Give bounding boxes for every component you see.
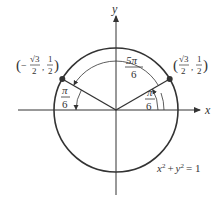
svg-text:,: , [42,62,44,72]
svg-text:x2+y2= 1: x2+y2= 1 [156,162,200,174]
svg-text:√3: √3 [179,54,189,64]
svg-text:1: 1 [48,54,53,64]
svg-text:6: 6 [131,68,137,80]
y-axis-label: y [111,2,118,16]
unit-circle-diagram: x y 5π 6 π 6 π 6 ( − √3 2 , 1 2 [0,0,220,205]
arc-left-pi-6 [76,90,81,110]
svg-text:2: 2 [32,66,37,76]
svg-text:2: 2 [181,66,186,76]
svg-text:2: 2 [197,66,202,76]
svg-text:π: π [147,86,153,98]
svg-text:−: − [21,60,27,71]
left-radius [62,79,116,110]
svg-text:,: , [191,62,193,72]
svg-text:6: 6 [62,98,68,110]
x-axis-label: x [204,103,211,117]
svg-text:1: 1 [197,54,202,64]
left-point-label: ( − √3 2 , 1 2 ) [16,54,59,76]
svg-text:√3: √3 [30,54,40,64]
svg-text:): ) [203,57,208,74]
svg-text:2: 2 [48,66,53,76]
label-right-pi-6: π 6 [145,86,155,112]
right-point-label: ( √3 2 , 1 2 ) [173,54,208,76]
svg-text:(: ( [173,57,178,74]
svg-text:6: 6 [146,100,152,112]
label-left-pi-6: π 6 [61,84,70,110]
svg-text:π: π [62,84,68,96]
arc-right-pi-6-outer [161,93,164,110]
left-point-dot [59,76,65,82]
circle-equation: x2+y2= 1 [156,162,200,174]
right-point-dot [167,76,173,82]
svg-text:): ) [54,57,59,74]
svg-text:5π: 5π [126,54,138,66]
label-5pi-6: 5π 6 [125,54,143,80]
arc-right-pi-6 [152,89,158,110]
